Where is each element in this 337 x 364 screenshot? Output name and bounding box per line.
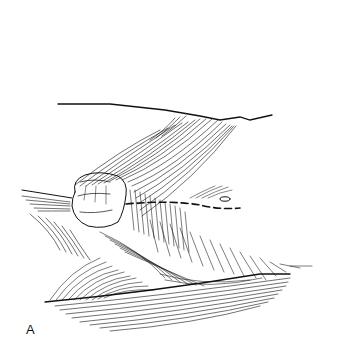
right-small-hatching [190,186,232,198]
panel-label: A [26,322,35,337]
left-lower-hatching [50,258,154,300]
left-wedge-hatching [22,190,90,260]
lower-fan-hatching [100,220,312,286]
central-vertical-hatching [130,190,189,252]
anatomical-illustration [0,0,337,364]
bottom-base-contour [45,274,290,302]
top-contour-line [58,104,272,120]
incision-end-mark [220,197,230,201]
illustration-drawing [0,0,337,364]
